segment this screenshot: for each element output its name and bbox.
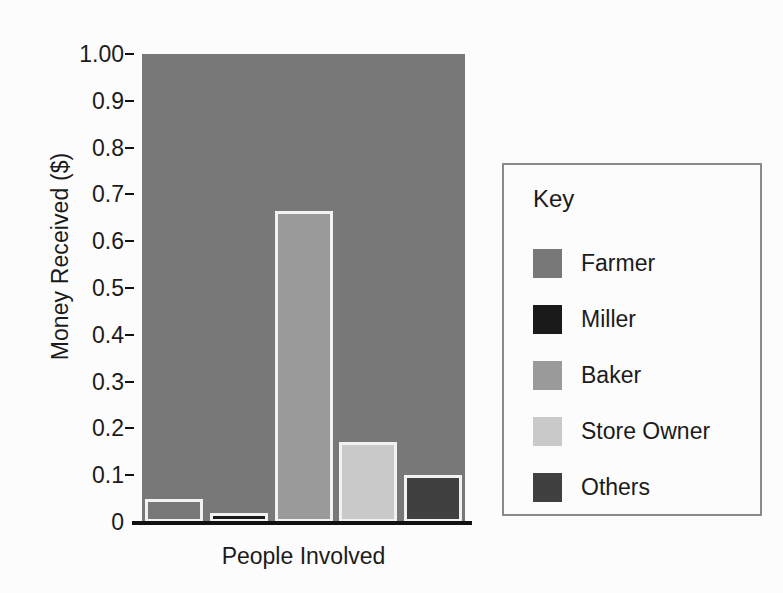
y-axis-tick-mark: [125, 100, 134, 102]
chart-figure: Money Received ($) 1.000.90.80.70.60.50.…: [0, 0, 783, 593]
x-axis-line: [132, 521, 472, 525]
y-axis-tick-mark: [125, 53, 134, 55]
y-axis-tick-mark: [125, 147, 134, 149]
y-axis-tick-mark: [125, 240, 134, 242]
y-axis-tick-label: 0.4: [92, 321, 124, 348]
legend-swatch-icon: [533, 305, 562, 334]
legend-item: Farmer: [533, 235, 750, 291]
y-axis-tick-label: 0.5: [92, 275, 124, 302]
bar-farmer: [145, 499, 203, 522]
y-axis-tick-label: 0: [111, 509, 124, 536]
x-axis-title: People Involved: [142, 543, 465, 570]
legend-item-label: Baker: [581, 362, 641, 389]
bar-baker: [275, 211, 333, 522]
legend-item-label: Miller: [581, 306, 636, 333]
legend-item: Baker: [533, 347, 750, 403]
y-axis-tick-mark: [125, 381, 134, 383]
plot-area: [142, 54, 465, 522]
y-axis-tick-mark: [125, 427, 134, 429]
legend-swatch-icon: [533, 249, 562, 278]
legend-swatch-icon: [533, 473, 562, 502]
legend-swatch-icon: [533, 361, 562, 390]
legend-swatch-icon: [533, 417, 562, 446]
bar-others: [404, 475, 462, 522]
legend-item-list: FarmerMillerBakerStore OwnerOthers: [533, 235, 750, 515]
y-axis-tick-label: 0.1: [92, 462, 124, 489]
y-axis-tick-label: 0.8: [92, 134, 124, 161]
legend-item-label: Farmer: [581, 250, 655, 277]
legend-item: Store Owner: [533, 403, 750, 459]
legend-item-label: Store Owner: [581, 418, 710, 445]
y-axis-tick-mark: [125, 193, 134, 195]
legend-item: Miller: [533, 291, 750, 347]
y-axis-tick-label: 0.2: [92, 415, 124, 442]
y-axis-tick-label: 0.3: [92, 368, 124, 395]
y-axis-tick-label: 1.00: [79, 41, 124, 68]
y-axis-tick-mark: [125, 334, 134, 336]
y-axis-tick-label: 0.7: [92, 181, 124, 208]
y-axis-tick-label: 0.6: [92, 228, 124, 255]
y-axis-tick-label: 0.9: [92, 87, 124, 114]
legend-title: Key: [533, 185, 574, 213]
bar-store-owner: [339, 442, 397, 522]
legend-item: Others: [533, 459, 750, 515]
legend-key-box: Key FarmerMillerBakerStore OwnerOthers: [502, 163, 762, 516]
legend-item-label: Others: [581, 474, 650, 501]
y-axis-tick-labels: 1.000.90.80.70.60.50.40.30.20.10: [58, 0, 134, 593]
y-axis-tick-mark: [125, 474, 134, 476]
y-axis-tick-mark: [125, 287, 134, 289]
